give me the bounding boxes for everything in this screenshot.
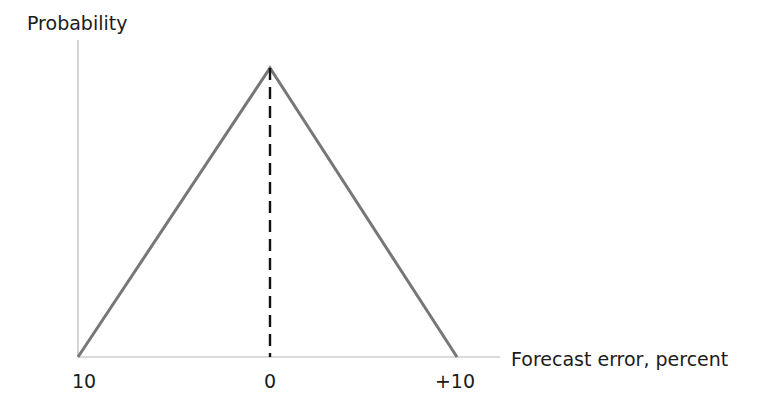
- x-tick-left: 10: [72, 372, 96, 391]
- chart-canvas: [0, 0, 758, 403]
- x-tick-right: +10: [435, 372, 475, 391]
- x-tick-center: 0: [264, 372, 276, 391]
- chart: Probability Forecast error, percent 10 0…: [0, 0, 758, 403]
- triangular-distribution-line: [78, 68, 457, 357]
- x-axis-label: Forecast error, percent: [511, 350, 728, 369]
- y-axis-label: Probability: [27, 14, 127, 33]
